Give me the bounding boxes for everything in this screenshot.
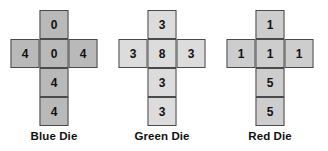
die-net-red: 1 1 1 1 5 5 Red Die	[216, 0, 324, 151]
die-face-center: 8	[148, 39, 177, 68]
die-face-bottom2: 4	[40, 97, 69, 126]
die-face-bottom: 5	[256, 68, 285, 97]
die-net-blue: 0 4 0 4 4 4 Blue Die	[0, 0, 108, 151]
dice-nets-figure: 0 4 0 4 4 4 Blue Die 3 3 8 3 3 3 Green D…	[0, 0, 328, 151]
die-face-bottom: 3	[148, 68, 177, 97]
die-face-center: 0	[40, 39, 69, 68]
die-face-left: 3	[119, 39, 148, 68]
die-face-top: 1	[256, 10, 285, 39]
die-net-cross-red: 1 1 1 1 5 5	[227, 10, 314, 126]
die-label-green: Green Die	[108, 130, 216, 142]
die-face-left: 4	[11, 39, 40, 68]
die-face-top: 0	[40, 10, 69, 39]
die-face-bottom: 4	[40, 68, 69, 97]
die-label-red: Red Die	[216, 130, 324, 142]
die-label-blue: Blue Die	[0, 130, 108, 142]
die-face-right: 1	[285, 39, 314, 68]
die-face-left: 1	[227, 39, 256, 68]
die-face-top: 3	[148, 10, 177, 39]
die-net-green: 3 3 8 3 3 3 Green Die	[108, 0, 216, 151]
die-face-bottom2: 5	[256, 97, 285, 126]
die-face-bottom2: 3	[148, 97, 177, 126]
die-net-cross-blue: 0 4 0 4 4 4	[11, 10, 98, 126]
die-net-cross-green: 3 3 8 3 3 3	[119, 10, 206, 126]
die-face-right: 4	[69, 39, 98, 68]
die-face-center: 1	[256, 39, 285, 68]
die-face-right: 3	[177, 39, 206, 68]
